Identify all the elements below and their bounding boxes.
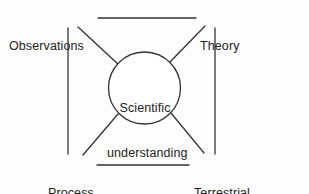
node-label-terrestrial-biosphere-models: Terrestrial biosphere models — [194, 158, 294, 194]
center-line-2: understanding — [107, 146, 183, 161]
node-label-theory: Theory — [200, 11, 240, 81]
diagram-canvas: Observations Theory Process parameteriza… — [0, 0, 309, 194]
theory-line-1: Theory — [200, 39, 240, 53]
node-label-scientific-understanding: Scientific understanding — [107, 71, 183, 191]
observations-line-1: Observations — [9, 39, 84, 53]
center-line-1: Scientific — [107, 101, 183, 116]
diagonal-observations-to-center — [78, 27, 119, 65]
terrestrial-line-1: Terrestrial — [194, 186, 294, 194]
node-label-observations: Observations — [9, 11, 84, 81]
